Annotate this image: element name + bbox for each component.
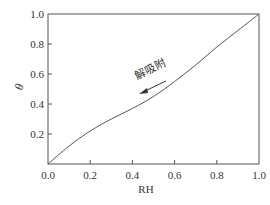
y-tick-label: 1.0 — [30, 8, 44, 20]
plot-border — [48, 14, 259, 164]
y-tick-label: 0.6 — [30, 68, 44, 80]
y-tick-label: 0.8 — [30, 38, 44, 50]
plot-frame — [48, 14, 259, 164]
x-tick-label: 0.6 — [168, 169, 182, 181]
x-tick-label: 1.0 — [252, 169, 266, 181]
tick-labels: 0.00.20.40.60.81.00.20.40.60.81.0 — [30, 8, 266, 181]
x-axis-label: RH — [138, 183, 153, 195]
x-tick-label: 0.8 — [210, 169, 224, 181]
x-tick-label: 0.0 — [41, 169, 55, 181]
axis-ticks — [48, 44, 217, 164]
x-tick-label: 0.4 — [126, 169, 140, 181]
y-tick-label: 0.2 — [30, 128, 44, 140]
y-axis-label: θ — [12, 82, 27, 91]
desorption-curve — [48, 14, 259, 164]
desorption-annotation: 解吸附 — [132, 55, 168, 94]
y-tick-label: 0.4 — [30, 98, 44, 110]
chart: 0.00.20.40.60.81.00.20.40.60.81.0 解吸附 RH… — [0, 0, 270, 205]
arrow-left-icon — [139, 88, 148, 94]
x-tick-label: 0.2 — [83, 169, 97, 181]
annotation-label: 解吸附 — [132, 55, 168, 82]
